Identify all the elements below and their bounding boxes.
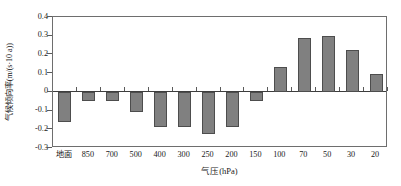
x-tick-label: 850 bbox=[76, 149, 100, 160]
bar bbox=[58, 92, 71, 122]
y-tick-mark bbox=[47, 128, 52, 129]
x-axis-title: 气压(hPa) bbox=[52, 165, 387, 177]
x-tick-label: 250 bbox=[196, 149, 220, 160]
x-axis-tick-labels: 地面85070050040030025020015010070503020 bbox=[52, 149, 387, 161]
y-tick-label: -0.3 bbox=[16, 143, 48, 152]
bar-chart: 气候倾向率(m/(s·10 a)) 0.40.30.20.10-0.1-0.2-… bbox=[0, 0, 401, 186]
x-tick-mark bbox=[387, 87, 388, 91]
x-tick-label: 20 bbox=[363, 149, 387, 160]
x-tick-mark bbox=[76, 87, 77, 91]
x-tick-label: 150 bbox=[243, 149, 267, 160]
bar bbox=[250, 92, 263, 101]
x-tick-mark bbox=[172, 87, 173, 91]
bar bbox=[226, 92, 239, 128]
y-tick-label: 0.1 bbox=[16, 68, 48, 77]
y-tick-label: -0.1 bbox=[16, 105, 48, 114]
y-tick-label: 0.4 bbox=[16, 12, 48, 21]
y-tick-mark bbox=[47, 35, 52, 36]
plot-area bbox=[52, 16, 387, 147]
x-tick-mark bbox=[220, 87, 221, 91]
bar bbox=[202, 92, 215, 134]
x-tick-mark bbox=[339, 87, 340, 91]
x-tick-label: 70 bbox=[291, 149, 315, 160]
x-tick-mark bbox=[243, 87, 244, 91]
bar bbox=[106, 92, 119, 101]
y-tick-label: -0.2 bbox=[16, 124, 48, 133]
x-tick-mark bbox=[315, 87, 316, 91]
bar bbox=[178, 92, 191, 128]
y-tick-label: 0 bbox=[16, 86, 48, 95]
x-tick-label: 700 bbox=[100, 149, 124, 160]
x-tick-label: 300 bbox=[172, 149, 196, 160]
x-tick-label: 30 bbox=[339, 149, 363, 160]
y-tick-mark bbox=[47, 147, 52, 148]
x-tick-mark bbox=[363, 87, 364, 91]
y-tick-mark bbox=[47, 53, 52, 54]
y-tick-label: 0.2 bbox=[16, 49, 48, 58]
bar bbox=[370, 74, 383, 92]
y-tick-mark bbox=[47, 110, 52, 111]
y-tick-label: 0.3 bbox=[16, 30, 48, 39]
x-tick-mark bbox=[148, 87, 149, 91]
x-tick-label: 500 bbox=[124, 149, 148, 160]
x-tick-label: 100 bbox=[267, 149, 291, 160]
x-tick-mark bbox=[100, 87, 101, 91]
x-tick-label: 地面 bbox=[52, 149, 76, 160]
x-tick-mark bbox=[267, 87, 268, 91]
x-tick-mark bbox=[291, 87, 292, 91]
y-tick-mark bbox=[47, 72, 52, 73]
x-tick-label: 400 bbox=[148, 149, 172, 160]
x-tick-mark bbox=[124, 87, 125, 91]
bar bbox=[154, 92, 167, 128]
bar bbox=[298, 38, 311, 92]
x-tick-label: 200 bbox=[220, 149, 244, 160]
bar bbox=[346, 50, 359, 92]
y-axis-title: 气候倾向率(m/(s·10 a)) bbox=[3, 7, 16, 157]
y-axis-tick-labels: 0.40.30.20.10-0.1-0.2-0.3 bbox=[16, 0, 48, 186]
x-tick-label: 50 bbox=[315, 149, 339, 160]
zero-baseline bbox=[53, 91, 386, 92]
y-tick-mark bbox=[47, 91, 52, 92]
x-tick-mark bbox=[196, 87, 197, 91]
y-tick-mark bbox=[47, 16, 52, 17]
bar bbox=[274, 67, 287, 92]
bar bbox=[322, 36, 335, 92]
bar bbox=[82, 92, 95, 101]
bar bbox=[130, 92, 143, 113]
